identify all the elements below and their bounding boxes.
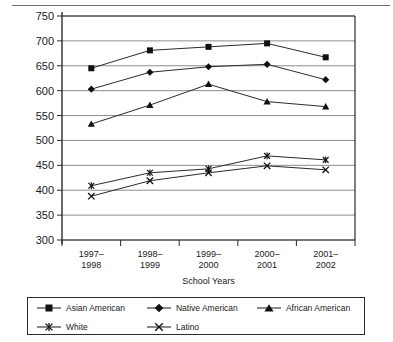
legend-label-white: White (66, 322, 88, 332)
legend-item-white: White (36, 322, 146, 332)
x-tick-label-line2: 1998 (81, 260, 101, 270)
legend-label-asian-american: Asian American (66, 303, 125, 313)
legend-label-native-american: Native American (176, 303, 238, 313)
data-point-diamond (146, 69, 153, 76)
data-point-diamond (322, 76, 329, 83)
data-point-diamond (88, 86, 95, 93)
y-tick-label: 600 (36, 85, 54, 97)
y-tick-label: 500 (36, 134, 54, 146)
data-point-square (147, 47, 153, 53)
chart-legend: Asian American Native American (27, 297, 365, 335)
cross-marker-icon (146, 322, 172, 332)
x-tick-label: 1999– (196, 249, 221, 259)
data-point-square (323, 54, 329, 60)
chart-page: 750700650600550500450400350300 1997–1998… (0, 0, 393, 342)
data-point-cross (88, 193, 94, 199)
x-tick-label: 1997– (79, 249, 104, 259)
data-point-square (206, 44, 212, 50)
x-tick-label: 2000– (255, 249, 280, 259)
data-point-diamond (264, 61, 271, 68)
square-marker-icon (36, 303, 62, 313)
x-tick-label: 1998– (137, 249, 162, 259)
x-tick-label-line2: 2000 (198, 260, 218, 270)
legend-row-2: White Latino (28, 317, 364, 336)
data-series-layer (88, 40, 330, 199)
series-african-american (88, 81, 330, 127)
legend-label-african-american: African American (286, 303, 350, 313)
data-point-diamond (205, 63, 212, 70)
triangle-marker-icon (256, 303, 282, 313)
data-point-square (88, 65, 94, 71)
asterisk-marker-icon (36, 322, 62, 332)
x-tick-label-line2: 1999 (140, 260, 160, 270)
y-tick-label: 650 (36, 60, 54, 72)
y-tick-label: 450 (36, 159, 54, 171)
x-tick-label: 2001– (313, 249, 338, 259)
chart-svg: 750700650600550500450400350300 1997–1998… (0, 0, 393, 290)
legend-item-latino: Latino (146, 322, 256, 332)
data-point-triangle (205, 81, 212, 87)
x-axis-ticks: 1997–19981998–19991999–20002000–20012001… (62, 240, 355, 270)
data-point-square (264, 40, 270, 46)
diamond-marker-icon (146, 303, 172, 313)
x-axis-title: School Years (182, 276, 235, 286)
x-tick-label-line2: 2002 (316, 260, 336, 270)
y-tick-label: 350 (36, 209, 54, 221)
x-tick-label-line2: 2001 (257, 260, 277, 270)
legend-item-native-american: Native American (146, 303, 256, 313)
series-white (88, 152, 328, 189)
y-tick-label: 400 (36, 184, 54, 196)
y-tick-label: 750 (36, 10, 54, 22)
y-tick-label: 700 (36, 35, 54, 47)
legend-label-latino: Latino (176, 322, 199, 332)
legend-item-african-american: African American (256, 303, 364, 313)
y-tick-label: 550 (36, 110, 54, 122)
legend-row-1: Asian American Native American (28, 298, 364, 317)
line-chart: 750700650600550500450400350300 1997–1998… (0, 0, 393, 290)
y-axis-ticks: 750700650600550500450400350300 (36, 10, 62, 246)
y-tick-label: 300 (36, 234, 54, 246)
legend-item-asian-american: Asian American (36, 303, 146, 313)
